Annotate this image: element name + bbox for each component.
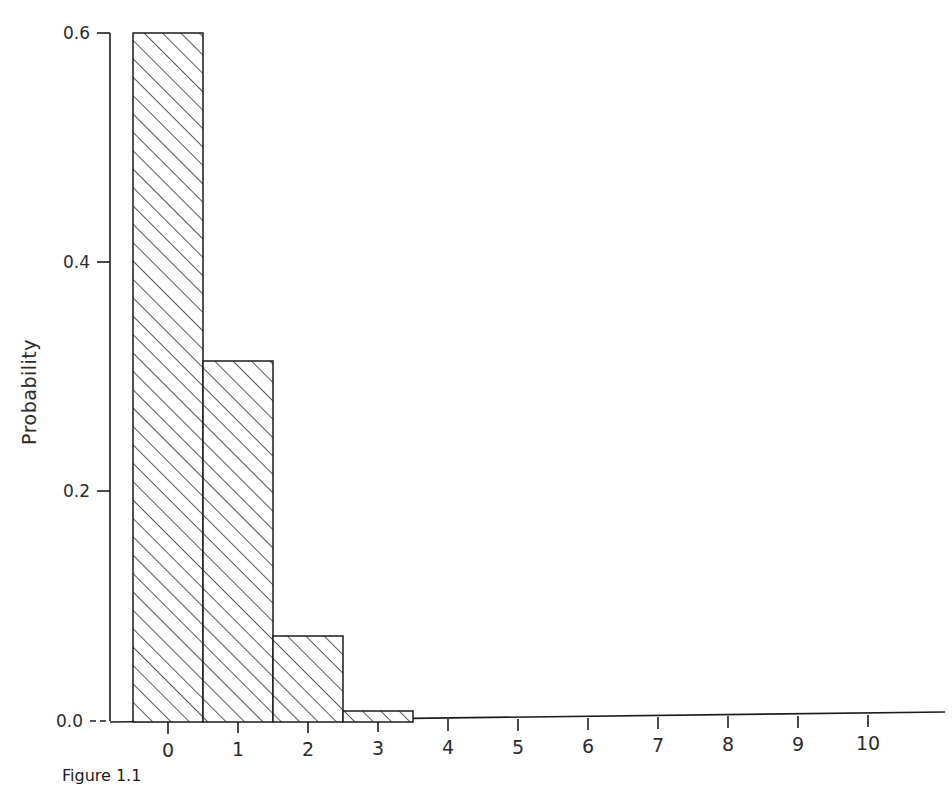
y-tick-label: 0.0 xyxy=(56,711,83,731)
histogram-bar xyxy=(273,636,343,722)
x-tick-label: 6 xyxy=(582,735,594,757)
histogram-bar xyxy=(133,33,203,722)
x-tick-label: 5 xyxy=(512,736,524,758)
histogram-bars xyxy=(133,33,413,722)
x-tick-label: 3 xyxy=(372,737,384,759)
x-tick-label: 4 xyxy=(442,736,454,758)
x-tick-label: 2 xyxy=(302,738,314,760)
y-tick-label: 0.4 xyxy=(63,252,90,272)
y-axis-title: Probability xyxy=(18,339,40,445)
y-tick-label: 0.2 xyxy=(63,481,90,501)
x-tick-label: 8 xyxy=(722,733,734,755)
x-tick-label: 0 xyxy=(162,739,174,761)
y-tick-label: 0.6 xyxy=(63,23,90,43)
x-tick-label: 9 xyxy=(792,733,804,755)
x-tick-label: 7 xyxy=(652,734,664,756)
x-tick-label: 10 xyxy=(856,732,880,754)
histogram-bar xyxy=(203,361,273,722)
figure-caption: Figure 1.1 xyxy=(62,766,141,785)
histogram-bar xyxy=(343,711,413,722)
y-axis: 0.6 0.4 0.2 0.0 Probability xyxy=(18,23,110,731)
x-tick-label: 1 xyxy=(232,738,244,760)
